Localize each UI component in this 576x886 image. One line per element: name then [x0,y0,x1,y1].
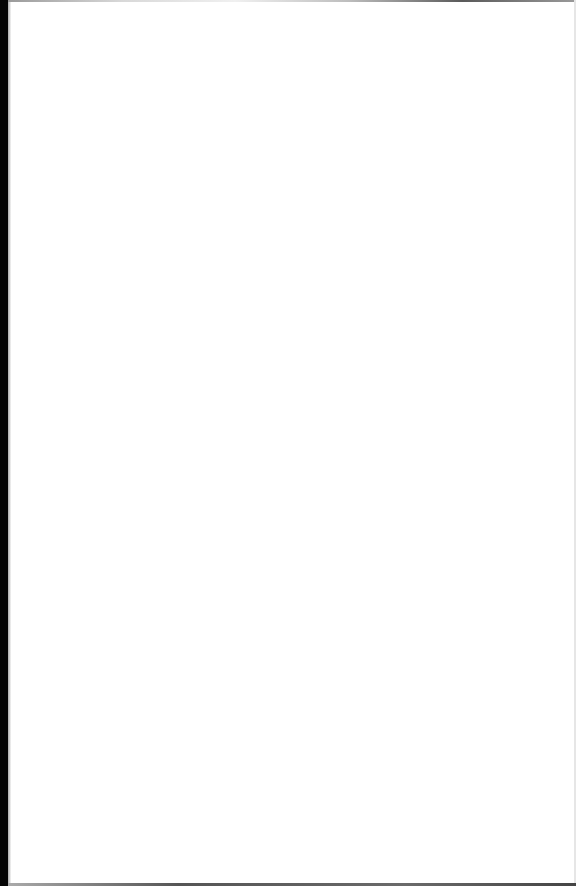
scan-left-border [0,0,8,886]
blank-page [11,2,574,883]
